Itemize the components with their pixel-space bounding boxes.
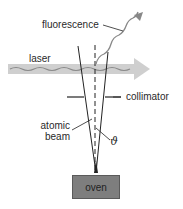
oven-label: oven	[85, 182, 107, 193]
atomic-beam-label-line1: atomic	[38, 121, 70, 131]
atomic-beam-label-line2: beam	[38, 132, 70, 142]
fluorescence-arrow	[96, 12, 143, 64]
oven-box: oven	[72, 175, 120, 199]
fluorescence-leader	[103, 25, 123, 31]
atomic-beam-fluorescence-diagram: fluorescence laser collimator atomic bea…	[0, 0, 183, 209]
fluorescence-label: fluorescence	[42, 20, 99, 30]
angle-leader	[96, 128, 110, 140]
angle-theta-label: ϑ	[110, 135, 118, 148]
collimator-label: collimator	[126, 92, 169, 102]
laser-label: laser	[29, 54, 51, 64]
